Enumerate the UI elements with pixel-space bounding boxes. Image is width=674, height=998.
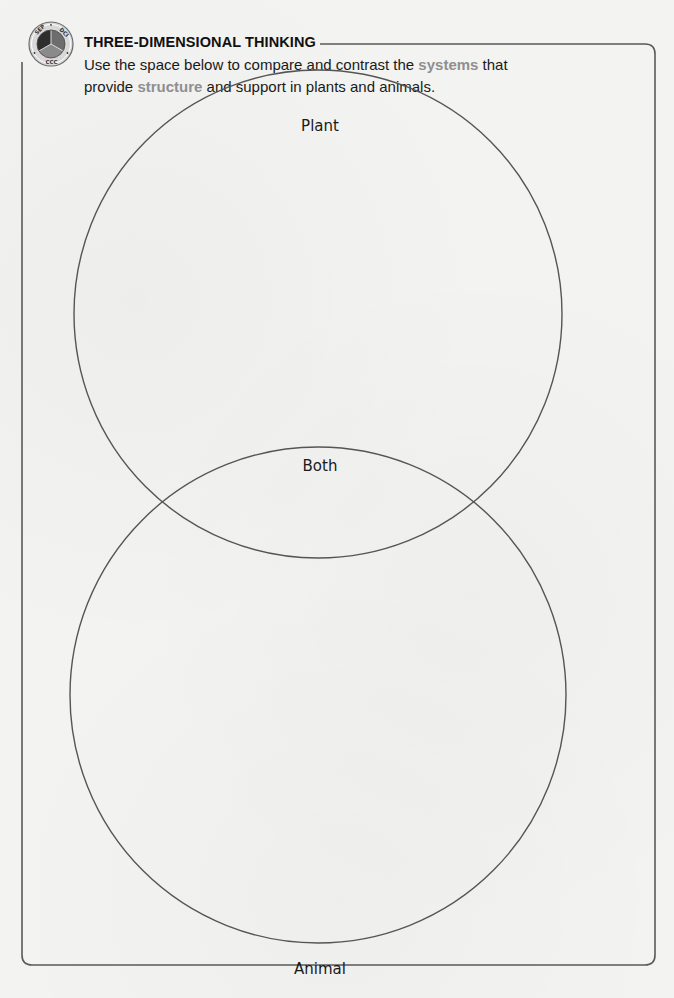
both-label: Both [303,457,338,475]
venn-diagram [0,0,674,998]
animal-circle[interactable] [70,447,566,943]
animal-label: Animal [294,960,346,978]
plant-label: Plant [301,117,339,135]
plant-circle[interactable] [74,70,562,558]
worksheet-frame [22,44,655,965]
